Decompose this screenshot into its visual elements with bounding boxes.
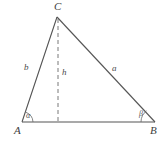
vertex-label-a: A [14, 125, 21, 136]
triangle-side-a [57, 17, 155, 122]
triangle-diagram: A B C b a h α β [0, 0, 165, 141]
angle-label-alpha: α [26, 112, 30, 120]
altitude-label-h: h [62, 68, 67, 77]
vertex-label-c: C [54, 1, 61, 12]
side-label-b: b [24, 63, 29, 72]
side-label-a: a [112, 64, 117, 73]
angle-label-beta: β [139, 110, 143, 118]
vertex-label-b: B [150, 125, 157, 136]
